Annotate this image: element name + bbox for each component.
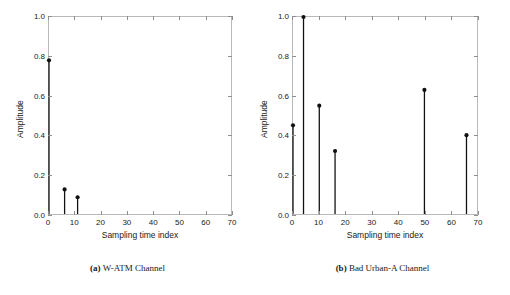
y-tick-mark [48, 175, 52, 176]
x-tick-mark-top [425, 16, 426, 20]
x-tick-label: 60 [201, 218, 210, 227]
x-tick-mark [206, 211, 207, 215]
caption-text-a: W-ATM Channel [103, 263, 165, 273]
stem-marker [76, 195, 80, 199]
x-tick-mark-top [232, 16, 233, 20]
stem-marker [464, 133, 468, 137]
caption-b: (b) Bad Urban-A Channel [255, 262, 510, 274]
y-tick-mark-right [228, 215, 232, 216]
figure-two-panel-stem-plots: 0102030405060700.00.20.40.60.81.0 Sampli… [0, 0, 510, 295]
y-tick-mark [48, 56, 52, 57]
x-tick-mark [345, 211, 346, 215]
x-tick-label: 70 [228, 218, 237, 227]
y-tick-mark-right [228, 96, 232, 97]
x-tick-label: 50 [420, 218, 429, 227]
x-tick-label: 40 [394, 218, 403, 227]
y-tick-mark-right [474, 16, 478, 17]
x-tick-label: 30 [122, 218, 131, 227]
y-tick-label: 0.0 [268, 211, 289, 220]
x-tick-label: 0 [46, 218, 50, 227]
x-tick-mark [478, 211, 479, 215]
x-tick-label: 10 [70, 218, 79, 227]
panel-a-w-atm-channel: 0102030405060700.00.20.40.60.81.0 Sampli… [0, 0, 255, 295]
caption-text-b: Bad Urban-A Channel [349, 263, 429, 273]
y-tick-mark-right [228, 135, 232, 136]
x-tick-mark-top [319, 16, 320, 20]
y-tick-label: 0.8 [268, 51, 289, 60]
y-tick-mark [292, 56, 296, 57]
y-tick-mark-right [228, 175, 232, 176]
x-tick-mark [179, 211, 180, 215]
y-tick-mark [48, 96, 52, 97]
x-tick-mark [74, 211, 75, 215]
plot-area-a [48, 16, 232, 215]
x-tick-mark [319, 211, 320, 215]
y-tick-label: 0.6 [268, 91, 289, 100]
y-tick-label: 0.6 [24, 91, 45, 100]
x-tick-label: 50 [175, 218, 184, 227]
stem-marker [63, 187, 67, 191]
x-tick-label: 60 [447, 218, 456, 227]
x-tick-mark-top [179, 16, 180, 20]
stem-series-a [49, 17, 231, 214]
y-tick-label: 0.4 [24, 131, 45, 140]
x-tick-label: 30 [367, 218, 376, 227]
x-tick-mark-top [345, 16, 346, 20]
y-tick-mark [292, 135, 296, 136]
x-tick-label: 70 [474, 218, 483, 227]
stem-series-b [293, 17, 477, 214]
x-tick-label: 40 [149, 218, 158, 227]
y-tick-label: 0.2 [268, 171, 289, 180]
x-tick-mark-top [74, 16, 75, 20]
x-tick-mark-top [372, 16, 373, 20]
y-tick-mark-right [474, 135, 478, 136]
y-tick-mark-right [474, 96, 478, 97]
y-tick-mark-right [474, 215, 478, 216]
x-tick-mark-top [478, 16, 479, 20]
x-tick-mark [153, 211, 154, 215]
stem-marker [291, 123, 295, 127]
y-tick-label: 0.8 [24, 51, 45, 60]
y-tick-mark-right [474, 56, 478, 57]
caption-tag-a: (a) [90, 263, 101, 273]
x-tick-mark-top [101, 16, 102, 20]
y-axis-title-a: Amplitude [15, 100, 25, 138]
y-tick-label: 0.2 [24, 171, 45, 180]
y-tick-label: 0.0 [24, 211, 45, 220]
y-axis-title-b: Amplitude [259, 100, 269, 138]
x-tick-mark [372, 211, 373, 215]
stem-marker [317, 104, 321, 108]
x-tick-mark [127, 211, 128, 215]
x-tick-label: 0 [290, 218, 294, 227]
stem-marker [333, 149, 337, 153]
y-tick-mark [292, 96, 296, 97]
x-tick-mark-top [127, 16, 128, 20]
x-axis-title-b: Sampling time index [292, 230, 478, 240]
y-tick-label: 1.0 [268, 12, 289, 21]
x-tick-mark [425, 211, 426, 215]
x-tick-label: 20 [96, 218, 105, 227]
caption-a: (a) W-ATM Channel [0, 262, 255, 274]
x-tick-mark-top [398, 16, 399, 20]
y-tick-mark [292, 175, 296, 176]
stem-marker [422, 88, 426, 92]
stem-marker [47, 58, 51, 62]
y-tick-label: 1.0 [24, 12, 45, 21]
x-tick-mark [232, 211, 233, 215]
stem-marker [301, 15, 305, 19]
y-tick-mark [292, 215, 296, 216]
x-tick-mark-top [206, 16, 207, 20]
x-tick-mark [451, 211, 452, 215]
y-tick-label: 0.4 [268, 131, 289, 140]
x-tick-mark-top [153, 16, 154, 20]
x-tick-mark-top [451, 16, 452, 20]
y-tick-mark [48, 135, 52, 136]
y-tick-mark [292, 16, 296, 17]
panel-b-bad-urban-a-channel: 0102030405060700.00.20.40.60.81.0 Sampli… [255, 0, 510, 295]
plot-area-b [292, 16, 478, 215]
y-tick-mark-right [474, 175, 478, 176]
y-tick-mark-right [228, 56, 232, 57]
y-tick-mark [48, 16, 52, 17]
x-tick-label: 20 [341, 218, 350, 227]
x-tick-label: 10 [314, 218, 323, 227]
